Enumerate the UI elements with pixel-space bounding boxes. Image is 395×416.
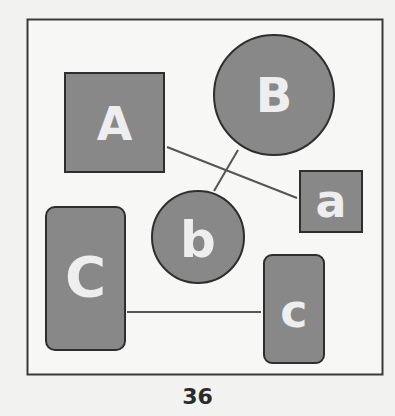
shape-C: C xyxy=(46,207,125,350)
page-number: 36 xyxy=(0,384,395,409)
matching-diagram: A B a b C c xyxy=(0,0,395,416)
label-c: c xyxy=(280,284,307,338)
shape-c: c xyxy=(264,255,324,363)
shape-b: b xyxy=(152,191,244,283)
shape-B: B xyxy=(214,35,334,155)
shape-a: a xyxy=(300,171,362,232)
label-C: C xyxy=(65,244,106,309)
shape-A: A xyxy=(65,73,164,172)
label-a: a xyxy=(315,174,346,228)
label-b: b xyxy=(180,211,216,269)
label-A: A xyxy=(97,97,133,151)
label-B: B xyxy=(256,67,293,123)
